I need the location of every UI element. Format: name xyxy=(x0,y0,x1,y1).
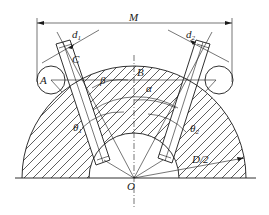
hatch-line xyxy=(0,0,49,215)
hatch-line xyxy=(0,0,22,215)
hatch-line xyxy=(59,0,269,215)
hatch-line xyxy=(257,0,269,215)
hatch-line xyxy=(185,0,269,215)
hatch-line xyxy=(266,0,269,215)
label-beta: β xyxy=(99,74,106,86)
hatch-line xyxy=(122,0,269,215)
hatch-line xyxy=(194,0,269,215)
label-B: B xyxy=(137,66,144,78)
hatch-line xyxy=(248,0,269,215)
hatch-line xyxy=(239,0,269,215)
label-C: C xyxy=(72,53,80,65)
label-d2: d2 xyxy=(186,28,196,42)
pin-left-tangent xyxy=(51,80,62,92)
hatch-line xyxy=(140,0,269,215)
label-M: M xyxy=(128,11,139,23)
hatch-line xyxy=(68,0,269,215)
hatch-line xyxy=(0,0,139,215)
label-d1: d1 xyxy=(72,28,81,42)
hatch-line xyxy=(0,0,31,215)
hatch-line xyxy=(230,0,269,215)
hatch-line xyxy=(0,0,103,215)
label-alpha: α xyxy=(146,82,152,94)
ray-left xyxy=(57,32,134,178)
label-A: A xyxy=(39,74,47,86)
hatch-line xyxy=(0,0,166,215)
hatch-line xyxy=(14,0,229,215)
hatch-line xyxy=(0,0,4,215)
hatch-line xyxy=(32,0,247,215)
hatch-line xyxy=(203,0,269,215)
hatch-line xyxy=(0,0,40,215)
radius-arrowhead xyxy=(237,157,244,161)
hatch-line xyxy=(221,0,269,215)
hatch-line xyxy=(50,0,265,215)
label-theta1: θ1 xyxy=(73,121,82,135)
measurement-diagram: M d1 d2 A B C β α θ1 θ2 D/2 O xyxy=(0,0,269,215)
hatch-line xyxy=(77,0,269,215)
hatch-line xyxy=(0,0,76,215)
dim-M-arrow-right xyxy=(225,21,232,25)
hatch-line xyxy=(149,0,269,215)
hatch-line xyxy=(0,0,211,215)
hatch-line xyxy=(0,0,130,215)
dim-M-arrow-left xyxy=(37,21,44,25)
hatch-line xyxy=(0,0,13,215)
label-origin: O xyxy=(127,180,135,192)
label-radius: D/2 xyxy=(191,153,209,165)
hatch-line xyxy=(131,0,269,215)
hatch-line xyxy=(0,0,121,215)
rod-right xyxy=(158,40,210,163)
label-theta2: θ2 xyxy=(190,122,199,136)
hatch-line xyxy=(0,0,184,215)
